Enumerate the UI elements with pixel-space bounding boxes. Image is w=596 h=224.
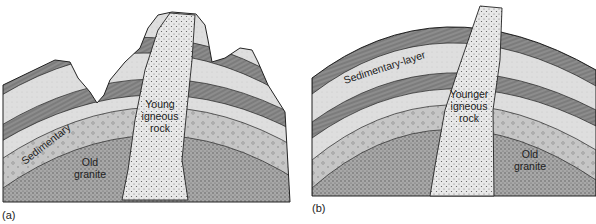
label-old-granite-b-1: Old	[522, 148, 539, 160]
label-young-igneous-2: igneous	[142, 110, 179, 122]
geology-diagram: Young igneous rock Sedimentary Old grani…	[0, 0, 596, 224]
label-younger-igneous-3: rock	[459, 112, 480, 124]
label-young-igneous-3: rock	[150, 122, 171, 134]
label-younger-igneous-2: igneous	[451, 100, 488, 112]
label-young-igneous-1: Young	[145, 98, 175, 110]
label-old-granite-a-1: Old	[82, 156, 99, 168]
label-younger-igneous-1: Younger	[450, 88, 489, 100]
caption-b: (b)	[312, 202, 325, 214]
label-old-granite-a-2: granite	[74, 168, 106, 180]
caption-a: (a)	[2, 209, 15, 221]
label-old-granite-b-2: granite	[514, 160, 546, 172]
